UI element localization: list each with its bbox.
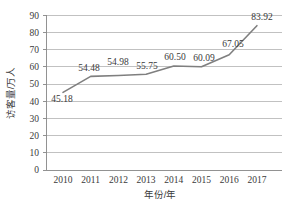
y-tick-label: 80 (30, 28, 40, 38)
data-label: 55.75 (136, 61, 158, 71)
x-tick-label: 2010 (54, 175, 73, 185)
data-label: 54.48 (78, 63, 100, 73)
y-axis-title: 访客量/万人 (5, 67, 16, 120)
y-axis-tick-labels: 90 80 70 60 50 40 30 20 10 0 (30, 11, 40, 176)
x-tick-label: 2011 (81, 175, 100, 185)
y-axis-tick-marks (43, 15, 47, 170)
chart-canvas: 90 80 70 60 50 40 30 20 10 0 2010 2011 2… (0, 0, 299, 202)
series-line-visitors (63, 26, 257, 93)
x-tick-label: 2012 (109, 175, 128, 185)
y-tick-label: 90 (30, 11, 40, 21)
y-tick-label: 60 (30, 62, 40, 72)
data-label: 60.09 (193, 53, 215, 63)
y-tick-label: 50 (30, 79, 40, 89)
data-label: 67.05 (222, 39, 244, 49)
x-axis-tick-labels: 2010 2011 2012 2013 2014 2015 2016 2017 (54, 175, 267, 185)
y-tick-label: 70 (30, 45, 40, 55)
data-label: 54.98 (107, 57, 129, 67)
x-tick-label: 2017 (247, 175, 266, 185)
x-tick-label: 2016 (220, 175, 239, 185)
y-tick-label: 20 (30, 131, 40, 141)
data-point-labels: 45.18 54.48 54.98 55.75 60.50 60.09 67.0… (51, 12, 273, 104)
data-label: 83.92 (251, 12, 273, 22)
data-label: 45.18 (51, 94, 73, 104)
x-tick-label: 2013 (137, 175, 156, 185)
y-tick-label: 10 (30, 148, 40, 158)
y-tick-label: 40 (30, 97, 40, 107)
line-chart-figure: 90 80 70 60 50 40 30 20 10 0 2010 2011 2… (0, 0, 299, 202)
x-tick-label: 2015 (192, 175, 211, 185)
y-tick-label: 30 (30, 114, 40, 124)
x-axis-title: 年份/年 (144, 189, 177, 200)
y-tick-label: 0 (34, 165, 39, 175)
data-label: 60.50 (164, 52, 186, 62)
x-tick-label: 2014 (164, 175, 183, 185)
